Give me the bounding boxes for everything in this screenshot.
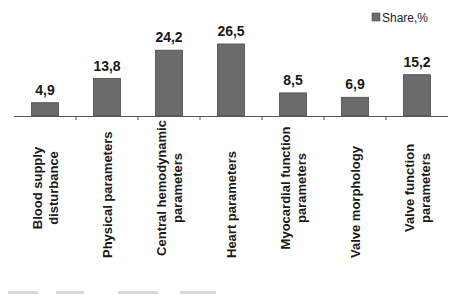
category-label: Valve functionparameters (402, 144, 433, 232)
caption-fragment (118, 291, 158, 294)
category-label-line: Valve morphology (348, 145, 363, 258)
bars-group (32, 44, 431, 116)
bar (94, 79, 121, 117)
category-label-line: parameters (170, 153, 185, 223)
caption-fragment (180, 291, 216, 294)
category-label-line: Myocardial function (278, 127, 293, 250)
category-label: Myocardial functionparameters (278, 127, 309, 250)
value-label: 15,2 (403, 54, 430, 70)
bar-chart: 4,913,824,226,58,56,915,2 Blood supplydi… (0, 0, 461, 297)
category-label-line: Heart parameters (224, 151, 239, 258)
category-label: Valve morphology (348, 145, 363, 258)
value-label: 24,2 (155, 29, 182, 45)
caption-fragment (56, 291, 84, 294)
category-label: Central hemodynamicparameters (154, 120, 185, 256)
bar (280, 93, 307, 116)
value-label: 6,9 (345, 76, 365, 92)
bar (404, 75, 431, 116)
legend-swatch (372, 13, 380, 21)
category-label: Blood supplydisturbance (30, 146, 61, 229)
value-label: 13,8 (93, 58, 120, 74)
value-label: 26,5 (217, 23, 244, 39)
category-label-line: disturbance (46, 151, 61, 225)
legend: Share,% (372, 11, 428, 25)
category-label-line: parameters (418, 153, 433, 223)
category-label: Physical parameters (100, 132, 115, 258)
category-label-line: Blood supply (30, 146, 45, 229)
value-label: 4,9 (35, 82, 55, 98)
value-label: 8,5 (283, 72, 303, 88)
bar (342, 97, 369, 116)
category-labels-group: Blood supplydisturbancePhysical paramete… (30, 120, 433, 258)
bar (156, 50, 183, 116)
category-label: Heart parameters (224, 151, 239, 258)
category-label-line: Central hemodynamic (154, 120, 169, 256)
caption-fragment (8, 291, 38, 294)
legend-label: Share,% (382, 11, 428, 25)
bar (218, 44, 245, 116)
category-label-line: parameters (294, 153, 309, 223)
bar (32, 103, 59, 116)
category-label-line: Valve function (402, 144, 417, 232)
category-label-line: Physical parameters (100, 132, 115, 258)
